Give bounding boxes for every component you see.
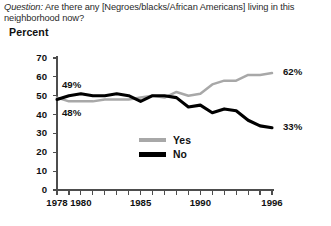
x-tick-label: 1990 [185, 197, 215, 208]
plot-area: 010203040506070 19781980198519901996 49%… [0, 38, 331, 208]
x-tick-label: 1980 [66, 197, 96, 208]
legend-label-no: No [173, 149, 187, 160]
y-tick-label: 70 [25, 52, 47, 63]
series-group [57, 73, 272, 128]
annotation-no-start: 48% [62, 107, 81, 118]
footer-cut-text [6, 219, 324, 226]
question-caption: Question: Are there any [Negroes/blacks/… [4, 2, 326, 25]
annotation-yes-end: 62% [283, 66, 302, 77]
chart-figure: Question: Are there any [Negroes/blacks/… [0, 0, 331, 226]
legend-swatch-no-icon [139, 152, 166, 157]
y-tick-label: 40 [25, 109, 47, 120]
annotation-no-end: 33% [283, 121, 302, 132]
legend-item-yes: Yes [139, 133, 219, 147]
series-line-no [57, 94, 272, 128]
y-tick-label: 20 [25, 146, 47, 157]
x-tick-label: 1985 [126, 197, 156, 208]
y-axis-unit-label: Percent [9, 26, 49, 38]
question-text: Are there any [Negroes/blacks/African Am… [4, 2, 294, 23]
y-tick-label: 50 [25, 90, 47, 101]
y-tick-label: 10 [25, 165, 47, 176]
x-tick-label: 1996 [257, 197, 287, 208]
chart-svg [0, 38, 331, 208]
annotation-yes-start: 49% [62, 79, 81, 90]
legend-item-no: No [139, 147, 219, 161]
y-tick-label: 60 [25, 71, 47, 82]
y-tick-label: 30 [25, 127, 47, 138]
axis-group [53, 56, 274, 195]
y-tick-label: 0 [25, 184, 47, 195]
legend-swatch-yes-icon [139, 138, 166, 142]
legend-label-yes: Yes [173, 135, 191, 146]
chart-legend: Yes No [139, 133, 219, 161]
question-label: Question: [4, 2, 43, 12]
